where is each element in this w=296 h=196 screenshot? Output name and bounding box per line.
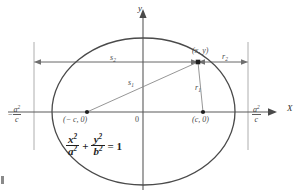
r1-label: r1 (195, 84, 201, 93)
right-focus-dot (201, 110, 205, 114)
left-directrix-label: −a2c (8, 105, 21, 124)
equation-term2-den-exp: 2 (99, 145, 103, 153)
equation-term2-num-exp: 2 (99, 133, 103, 141)
s2-label: s2 (110, 54, 116, 63)
right-directrix-num-exp: 2 (257, 104, 260, 110)
equation-term-1: x2 a2 (66, 134, 79, 157)
right-directrix-label: a2c (252, 105, 261, 124)
diagram-canvas (0, 0, 296, 196)
left-directrix-fraction: a2c (13, 105, 22, 124)
r2-label: r2 (222, 53, 228, 62)
right-directrix-fraction: a2c (252, 105, 261, 124)
ellipse-diagram: X y 0 (− c, 0) (c, 0) (x, y) s2 s1 r2 r1… (0, 0, 296, 196)
r2-subscript: 2 (225, 56, 228, 62)
point-on-ellipse-dot (196, 60, 201, 65)
right-directrix-numerator: a2 (252, 105, 261, 114)
left-focus-label: (− c, 0) (63, 116, 87, 124)
left-directrix-numerator: a2 (13, 105, 22, 114)
equation-equals: = 1 (108, 140, 123, 152)
s1-label: s1 (128, 79, 134, 88)
r1-subscript: 1 (198, 87, 201, 93)
page-corner-mark (1, 176, 4, 184)
x-axis-label: X (287, 104, 293, 113)
s1-subscript: 1 (131, 82, 134, 88)
equation-term1-numerator: x2 (66, 134, 79, 145)
s2-measure-arrow (34, 59, 198, 64)
equation-term1-denominator: a2 (66, 145, 79, 157)
left-focus-dot (85, 110, 89, 114)
s2-subscript: 2 (113, 57, 116, 63)
y-axis-label: y (138, 4, 142, 13)
right-focus-label: (c, 0) (192, 116, 209, 124)
equation-operator: + (82, 140, 88, 152)
equation-term-2: y2 b2 (91, 134, 104, 157)
equation-term1-num-exp: 2 (74, 133, 78, 141)
equation-term1-den-exp: 2 (74, 145, 78, 153)
equation-term2-numerator: y2 (91, 134, 104, 145)
right-directrix-denominator: c (252, 114, 261, 124)
y-axis (139, 9, 146, 190)
ellipse-equation: x2 a2 + y2 b2 = 1 (66, 134, 122, 157)
equation-term2-denominator: b2 (91, 145, 104, 157)
point-on-ellipse-label: (x, y) (192, 47, 208, 55)
left-directrix-num-exp: 2 (18, 104, 21, 110)
left-directrix-denominator: c (13, 114, 22, 124)
origin-label: 0 (135, 116, 139, 124)
